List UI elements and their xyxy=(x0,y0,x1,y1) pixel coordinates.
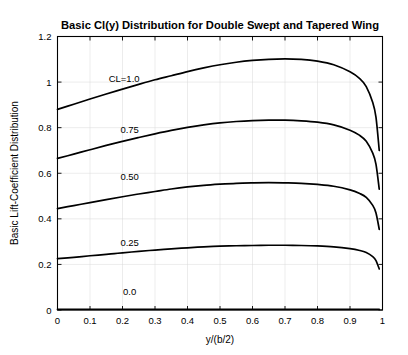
y-tick-label: 0.2 xyxy=(38,259,51,270)
y-tick-label: 0.6 xyxy=(38,168,51,179)
curve-label: 0.0 xyxy=(123,286,136,297)
y-tick-label: 1.2 xyxy=(38,31,51,42)
x-tick-label: 0.7 xyxy=(278,315,291,326)
curve-label: 0.50 xyxy=(120,171,139,182)
x-axis-label: y/(b/2) xyxy=(206,334,234,345)
x-tick-label: 0.9 xyxy=(343,315,356,326)
y-tick-label: 0.4 xyxy=(38,213,51,224)
x-tick-label: 0.6 xyxy=(246,315,259,326)
y-axis-label: Basic Lift-Coefficient Distribution xyxy=(9,101,20,245)
x-tick-label: 0.2 xyxy=(116,315,129,326)
chart-figure: Basic Cl(y) Distribution for Double Swep… xyxy=(0,0,408,355)
y-tick-label: 0 xyxy=(46,305,51,316)
x-tick-label: 0.4 xyxy=(181,315,194,326)
x-tick-label: 0.5 xyxy=(213,315,226,326)
chart-background xyxy=(0,0,408,355)
chart-title: Basic Cl(y) Distribution for Double Swep… xyxy=(61,19,379,31)
x-tick-label: 0.3 xyxy=(148,315,161,326)
x-tick-label: 1 xyxy=(380,315,385,326)
y-tick-label: 0.8 xyxy=(38,122,51,133)
x-tick-label: 0 xyxy=(55,315,60,326)
x-tick-label: 0.8 xyxy=(311,315,324,326)
curve-label: 0.25 xyxy=(120,237,139,248)
x-tick-label: 0.1 xyxy=(83,315,96,326)
curve-label: 0.75 xyxy=(120,124,139,135)
curve-label: CL=1.0 xyxy=(109,73,140,84)
y-tick-label: 1 xyxy=(46,77,51,88)
basic-cl-distribution-chart: Basic Cl(y) Distribution for Double Swep… xyxy=(0,0,408,355)
